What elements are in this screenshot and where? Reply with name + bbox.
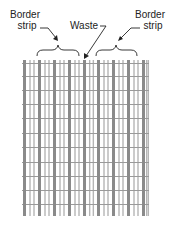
left-leader-line: [40, 28, 56, 38]
thick-strip: [53, 60, 56, 216]
thick-strip: [142, 60, 145, 216]
thin-strip: [48, 60, 49, 216]
thick-strip: [97, 60, 100, 216]
thin-strip: [59, 60, 60, 216]
thick-strip: [23, 60, 26, 216]
right-leader-line: [121, 28, 140, 38]
thin-strip: [89, 60, 90, 216]
waste-arrowhead-icon: [84, 53, 89, 59]
thin-strip: [29, 60, 30, 216]
thin-strip: [118, 60, 119, 216]
right-brace-icon: [96, 45, 137, 56]
thin-strip: [74, 60, 75, 216]
thin-strip: [33, 60, 34, 216]
thick-strip: [83, 60, 86, 216]
grid: [22, 60, 149, 216]
waste-leader-line: [86, 26, 106, 56]
thin-strip: [63, 60, 64, 216]
thin-strip: [103, 60, 104, 216]
thin-strip: [148, 60, 149, 216]
thick-strip: [68, 60, 71, 216]
thin-strip: [93, 60, 94, 216]
thick-strip: [112, 60, 115, 216]
left-brace-icon: [37, 45, 79, 56]
thick-strip: [127, 60, 130, 216]
thin-strip: [78, 60, 79, 216]
thin-strip: [107, 60, 108, 216]
strip-grid-diagram: [0, 0, 177, 231]
thin-strip: [146, 60, 147, 216]
thin-strip: [44, 60, 45, 216]
thin-strip: [133, 60, 134, 216]
annotations: [37, 26, 140, 59]
thin-strip: [137, 60, 138, 216]
thick-strip: [38, 60, 41, 216]
thin-strip: [122, 60, 123, 216]
